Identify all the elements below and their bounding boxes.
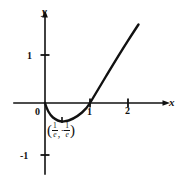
math-figure: y x 0 1 -1 1 2 ( 1 e , - 1 e ) xyxy=(0,0,184,180)
annotation-close-paren: ) xyxy=(70,123,75,138)
y-axis-label: y xyxy=(42,6,47,17)
x-axis-label: x xyxy=(169,97,175,108)
tick-label-x-1: 1 xyxy=(87,107,92,117)
tick-label-y-minus-1: -1 xyxy=(20,151,28,161)
minimum-point-annotation: ( 1 e , - 1 e ) xyxy=(47,122,75,139)
tick-label-x-2: 2 xyxy=(125,106,130,116)
tick-label-y-1: 1 xyxy=(27,51,32,61)
annotation-comma: , xyxy=(58,129,61,139)
annotation-y-denominator: e xyxy=(64,130,69,139)
origin-label: 0 xyxy=(35,107,40,117)
annotation-x-denominator: e xyxy=(52,130,57,139)
